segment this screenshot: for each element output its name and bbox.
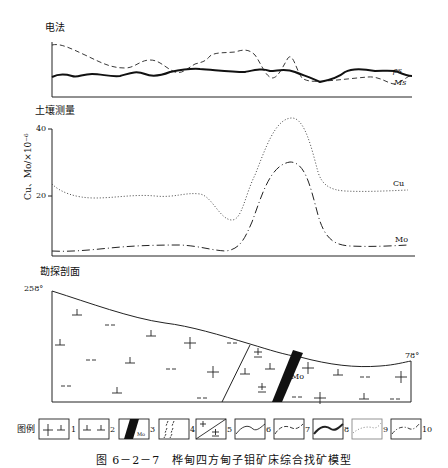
soil-panel — [48, 118, 415, 256]
section-panel — [52, 291, 411, 404]
fault-line — [222, 345, 250, 402]
legend-title: 图例 — [17, 425, 35, 434]
legend-num-9: 9 — [383, 426, 388, 434]
electric-title: 电法 — [45, 23, 65, 33]
section-outline — [52, 291, 411, 402]
legend-num-5: 5 — [227, 426, 232, 434]
rock-symbols — [55, 309, 407, 404]
ms-dashed-curve — [52, 45, 410, 84]
ytick-20: 20 — [36, 192, 46, 200]
legend-num-10: 10 — [422, 426, 432, 434]
legend-num-7: 7 — [305, 426, 310, 434]
legend-num-6: 6 — [266, 426, 271, 434]
legend-num-4: 4 — [190, 426, 195, 434]
soil-ylabel: Cu、Mo/×10⁻⁶ — [21, 133, 34, 200]
legend-num-8: 8 — [344, 426, 349, 434]
figure-caption: 图 6－2－7 桦甸四方甸子钼矿床综合找矿模型 — [0, 451, 448, 467]
cu-dotted-curve — [52, 118, 408, 220]
right-elevation: 78° — [405, 352, 419, 360]
soil-title: 土壤测量 — [35, 106, 75, 116]
legend-num-2: 2 — [110, 426, 115, 434]
cu-label: Cu — [393, 180, 404, 188]
legend-num-1: 1 — [71, 426, 76, 434]
rho-label: ρs — [393, 67, 402, 75]
rho-solid-curve — [52, 69, 412, 82]
vein-label: Mo — [291, 373, 304, 381]
ms-label: Ms — [394, 79, 406, 87]
mo-dashdot-curve — [52, 162, 408, 251]
legend-num-3: 3 — [150, 426, 155, 434]
ytick-40: 40 — [36, 125, 46, 133]
legend-inner-mo: Mo — [137, 432, 145, 437]
left-elevation: 258° — [24, 285, 43, 293]
diagram-canvas — [0, 0, 448, 468]
section-title: 勘探剖面 — [40, 267, 80, 277]
electric-panel — [52, 42, 412, 97]
mo-label: Mo — [395, 236, 408, 244]
